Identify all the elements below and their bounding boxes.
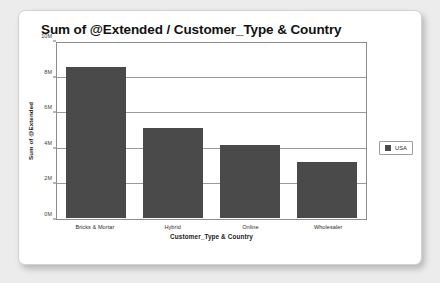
y-axis-tick-label: 8M (44, 69, 52, 75)
y-axis-tick-mark (53, 147, 56, 148)
y-axis-tick-label: 0M (44, 211, 52, 217)
y-axis-tick-label: 4M (44, 140, 52, 146)
bar[interactable] (220, 145, 280, 218)
bar[interactable] (143, 128, 203, 218)
plot-wrapper: 0M2M4M6M8M10M Bricks & MortarHybridOnlin… (56, 42, 367, 220)
plot-area (56, 42, 367, 220)
legend-label: USA (395, 145, 407, 151)
bar-slot (135, 44, 212, 218)
x-axis-tick-label: Bricks & Mortar (56, 224, 134, 230)
y-axis-tick-label: 2M (44, 175, 52, 181)
x-axis-title: Customer_Type & Country (56, 233, 367, 240)
x-axis-tick-label: Hybrid (134, 224, 212, 230)
y-axis-tick-label: 10M (41, 33, 52, 39)
y-axis-tick-mark (53, 41, 56, 42)
y-axis-tick-label: 6M (44, 104, 52, 110)
bar-series-usa (58, 44, 365, 218)
bar[interactable] (297, 162, 357, 218)
bar-slot (58, 44, 135, 218)
bar[interactable] (66, 67, 126, 218)
x-axis-tick-label: Online (212, 224, 290, 230)
bar-slot (212, 44, 289, 218)
x-axis-tick-label: Wholesaler (289, 224, 367, 230)
chart-panel: Sum of @Extended / Customer_Type & Count… (18, 10, 422, 265)
x-axis-tick-labels: Bricks & MortarHybridOnlineWholesaler (56, 224, 367, 230)
y-axis-title: Sum of @Extended (25, 42, 35, 220)
y-axis-tick-mark (53, 183, 56, 184)
bar-slot (288, 44, 365, 218)
y-axis-tick-mark (53, 76, 56, 77)
legend-swatch-icon (385, 145, 391, 151)
chart-legend: USA (379, 141, 413, 155)
screenshot-root: Sum of @Extended / Customer_Type & Count… (0, 0, 440, 283)
y-axis-tick-mark (53, 219, 56, 220)
y-axis-tick-mark (53, 112, 56, 113)
chart-title: Sum of @Extended / Customer_Type & Count… (41, 22, 342, 37)
